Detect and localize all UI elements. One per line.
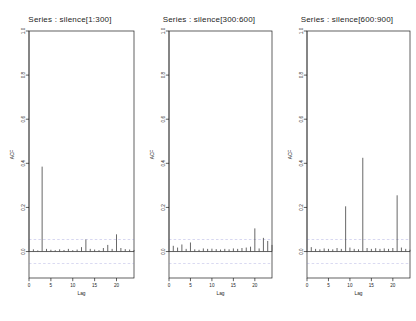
svg-text:0: 0 [28, 283, 31, 288]
svg-text:1.0: 1.0 [299, 27, 304, 34]
acf-figure: Series : silence[1:300] 0.00.20.40.60.81… [0, 0, 416, 321]
svg-text:ACF: ACF [288, 150, 293, 160]
svg-text:Lag: Lag [354, 291, 362, 296]
svg-text:10: 10 [347, 283, 353, 288]
svg-text:0.8: 0.8 [299, 71, 304, 78]
svg-text:0.6: 0.6 [299, 116, 304, 123]
acf-panel-1: Series : silence[1:300] 0.00.20.40.60.81… [0, 0, 140, 321]
svg-text:ACF: ACF [10, 150, 15, 160]
svg-text:0.4: 0.4 [21, 160, 26, 167]
svg-text:20: 20 [390, 283, 396, 288]
svg-text:0.6: 0.6 [161, 116, 166, 123]
svg-text:Lag: Lag [216, 291, 224, 296]
acf-panel-2: Series : silence[300:600] 0.00.20.40.60.… [140, 0, 278, 321]
svg-text:15: 15 [369, 283, 375, 288]
svg-text:0: 0 [168, 283, 171, 288]
plot-area: 0.00.20.40.60.81.0ACF05101520Lag [0, 0, 140, 321]
svg-text:5: 5 [327, 283, 330, 288]
svg-text:0.2: 0.2 [161, 204, 166, 211]
svg-text:0.2: 0.2 [299, 204, 304, 211]
plot-area: 0.00.20.40.60.81.0ACF05101520Lag [278, 0, 416, 321]
svg-text:20: 20 [252, 283, 258, 288]
svg-text:0: 0 [306, 283, 309, 288]
plot-area: 0.00.20.40.60.81.0ACF05101520Lag [140, 0, 278, 321]
svg-text:5: 5 [189, 283, 192, 288]
svg-text:0.4: 0.4 [299, 160, 304, 167]
svg-text:20: 20 [114, 283, 120, 288]
svg-text:5: 5 [50, 283, 53, 288]
svg-text:1.0: 1.0 [161, 27, 166, 34]
svg-text:0.8: 0.8 [21, 71, 26, 78]
svg-text:ACF: ACF [150, 150, 155, 160]
svg-text:0.0: 0.0 [299, 248, 304, 255]
svg-text:0.4: 0.4 [161, 160, 166, 167]
acf-panel-3: Series : silence[600:900] 0.00.20.40.60.… [278, 0, 416, 321]
svg-text:0.0: 0.0 [161, 248, 166, 255]
svg-text:0.6: 0.6 [21, 116, 26, 123]
svg-text:Lag: Lag [77, 291, 85, 296]
svg-text:15: 15 [92, 283, 98, 288]
svg-text:0.0: 0.0 [21, 248, 26, 255]
svg-text:15: 15 [231, 283, 237, 288]
svg-text:0.8: 0.8 [161, 71, 166, 78]
svg-text:0.2: 0.2 [21, 204, 26, 211]
svg-text:10: 10 [70, 283, 76, 288]
svg-text:1.0: 1.0 [21, 27, 26, 34]
svg-text:10: 10 [209, 283, 215, 288]
